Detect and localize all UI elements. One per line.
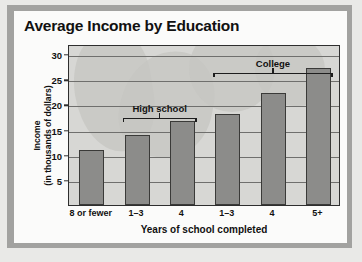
x-tick-label: 4 (179, 208, 184, 218)
y-axis-title-line1: Income (32, 61, 43, 211)
x-tick-label: 1–3 (128, 208, 143, 218)
page-title: Average Income by Education (24, 17, 239, 35)
group-bracket: College (209, 58, 337, 78)
bracket-shape (119, 115, 201, 122)
x-axis: 8 or fewer1–341–345+ (68, 208, 340, 222)
figure-frame: Average Income by Education 51015202530 … (0, 0, 362, 262)
y-tick-label: 20 (51, 100, 62, 111)
x-axis-title: Years of school completed (68, 224, 340, 235)
x-tick-label: 4 (269, 208, 274, 218)
y-axis-title-line2: (in thousands of dollars) (42, 61, 53, 211)
bar (306, 68, 331, 205)
bar (125, 135, 150, 205)
y-tick-label: 10 (51, 150, 62, 161)
bar (170, 121, 195, 205)
gridline (69, 132, 339, 133)
gridline (69, 56, 339, 57)
bracket-shape (209, 70, 337, 77)
bar (261, 93, 286, 205)
x-tick-label: 5+ (312, 208, 322, 218)
y-tick-label: 30 (51, 50, 62, 61)
y-tick-label: 25 (51, 75, 62, 86)
bar (215, 114, 240, 205)
x-tick-label: 1–3 (219, 208, 234, 218)
group-bracket: High school (119, 103, 201, 123)
gridline (69, 157, 339, 158)
x-tick-label: 8 or fewer (69, 208, 112, 218)
gridline (69, 81, 339, 82)
bar (79, 150, 104, 205)
y-tick-label: 15 (51, 125, 62, 136)
y-tick-label: 5 (57, 175, 62, 186)
plot-area: High schoolCollege (68, 45, 340, 206)
gridline (69, 182, 339, 183)
gridline (69, 106, 339, 107)
y-axis-title: Income (in thousands of dollars) (32, 61, 53, 211)
